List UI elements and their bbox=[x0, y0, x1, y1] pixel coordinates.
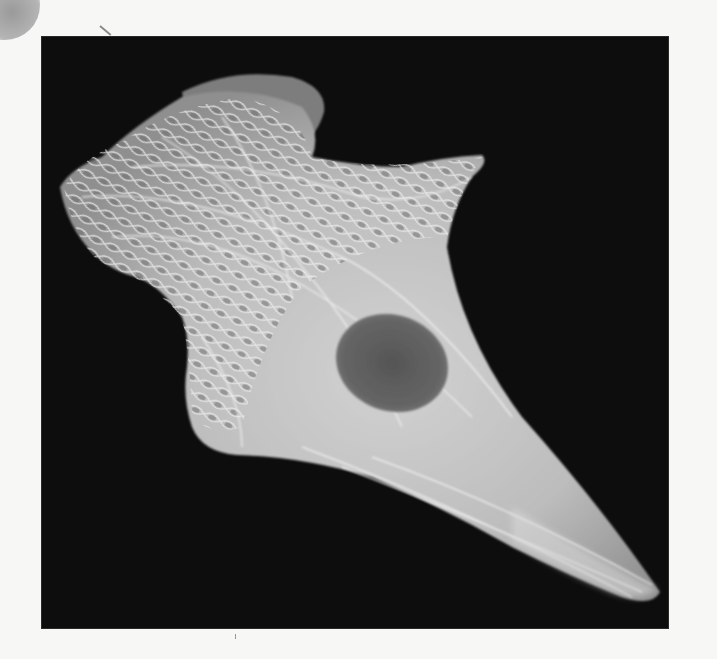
page-corner-shadow bbox=[0, 0, 40, 40]
scan-artifact-tick bbox=[235, 634, 236, 639]
cell-illustration bbox=[42, 37, 668, 628]
stray-pen-mark bbox=[99, 25, 111, 36]
micrograph-figure bbox=[42, 37, 668, 628]
